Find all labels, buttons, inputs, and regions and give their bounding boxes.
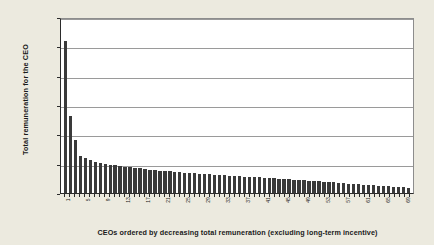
- x-axis-tick-mark: [334, 194, 335, 197]
- y-axis-tick-mark: [57, 165, 60, 166]
- x-axis-title: CEOs ordered by decreasing total remuner…: [60, 228, 415, 237]
- x-axis-tick-mark: [399, 194, 400, 197]
- bar: [367, 185, 370, 193]
- bar: [263, 178, 266, 193]
- bar: [337, 183, 340, 193]
- y-axis-tick-mark: [57, 18, 60, 19]
- bar: [272, 178, 275, 193]
- bar-series: [61, 19, 413, 193]
- bar: [317, 181, 320, 193]
- bar: [163, 171, 166, 193]
- bar: [387, 186, 390, 193]
- bar: [118, 166, 121, 193]
- bar: [94, 162, 97, 193]
- x-axis-tick-mark: [134, 194, 135, 197]
- x-axis-label-slot: [407, 199, 412, 221]
- bar: [223, 175, 226, 193]
- bar: [372, 185, 375, 193]
- bar-chart: Total remuneration for the CEO $30,000,0…: [0, 0, 434, 245]
- bar: [302, 180, 305, 193]
- x-axis-tick-mark: [159, 194, 160, 197]
- x-axis-tick-mark: [379, 194, 380, 197]
- bar: [287, 179, 290, 193]
- bar: [233, 176, 236, 193]
- bar: [143, 169, 146, 193]
- bar: [104, 164, 107, 193]
- bar: [168, 171, 171, 193]
- bar: [203, 174, 206, 193]
- bar: [342, 183, 345, 193]
- x-axis-tick-mark: [99, 194, 100, 197]
- x-axis-tick-mark: [279, 194, 280, 197]
- bar: [79, 156, 82, 193]
- bar-slot: [406, 19, 411, 193]
- x-axis-tick-mark: [274, 194, 275, 197]
- x-axis-tick-mark: [394, 194, 395, 197]
- bar: [248, 177, 251, 193]
- bar: [362, 185, 365, 193]
- y-axis-tick-mark: [57, 135, 60, 136]
- bar: [188, 173, 191, 193]
- bar: [282, 179, 285, 193]
- y-axis-title: Total remuneration for the CEO: [22, 25, 29, 175]
- plot-area: [60, 18, 414, 194]
- x-axis-tick-mark: [214, 194, 215, 197]
- bar: [243, 177, 246, 193]
- x-axis-tick-mark: [64, 194, 65, 197]
- x-axis-tick-labels: 159131721252933374145495357616569: [60, 199, 414, 221]
- bar: [327, 182, 330, 193]
- bar: [312, 181, 315, 193]
- bar: [153, 170, 156, 193]
- bar: [332, 182, 335, 193]
- bar: [277, 179, 280, 193]
- x-axis-tick-mark: [69, 194, 70, 197]
- bar: [178, 172, 181, 193]
- x-axis-tick-mark: [94, 194, 95, 197]
- bar: [307, 181, 310, 193]
- bar: [198, 174, 201, 193]
- bar: [99, 163, 102, 193]
- bar: [193, 173, 196, 193]
- x-axis-tick-mark: [119, 194, 120, 197]
- bar: [292, 180, 295, 193]
- y-axis-tick-mark: [57, 77, 60, 78]
- bar: [347, 184, 350, 194]
- bar: [148, 170, 151, 193]
- bar: [258, 177, 261, 193]
- x-axis-tick-mark: [194, 194, 195, 197]
- y-axis-tick-mark: [57, 106, 60, 107]
- x-axis-tick-mark: [154, 194, 155, 197]
- x-axis-tick-mark: [359, 194, 360, 197]
- bar: [238, 176, 241, 193]
- bar: [377, 186, 380, 193]
- bar: [218, 175, 221, 193]
- bar: [297, 180, 300, 193]
- x-axis-tick-mark: [259, 194, 260, 197]
- x-axis-tick-mark: [299, 194, 300, 197]
- y-axis-tick-mark: [57, 47, 60, 48]
- x-axis-tick-mark: [239, 194, 240, 197]
- bar: [128, 167, 131, 193]
- bar: [357, 184, 360, 193]
- bar: [382, 186, 385, 193]
- x-axis-tick-mark: [234, 194, 235, 197]
- x-axis-tick-mark: [74, 194, 75, 197]
- bar: [133, 168, 136, 193]
- x-axis-tick-mark: [354, 194, 355, 197]
- x-axis-tick-mark: [319, 194, 320, 197]
- x-axis-tick-mark: [339, 194, 340, 197]
- x-axis-tick-mark: [139, 194, 140, 197]
- bar: [109, 165, 112, 193]
- bar: [397, 187, 400, 193]
- bar: [183, 173, 186, 193]
- bar: [123, 167, 126, 193]
- bar: [69, 116, 72, 193]
- bar: [268, 178, 271, 193]
- bar: [407, 188, 410, 193]
- bar: [253, 177, 256, 193]
- bar: [228, 176, 231, 193]
- x-axis-tick-mark: [89, 194, 90, 197]
- x-axis-tick-mark: [114, 194, 115, 197]
- x-axis-tick-mark: [374, 194, 375, 197]
- bar: [74, 140, 77, 193]
